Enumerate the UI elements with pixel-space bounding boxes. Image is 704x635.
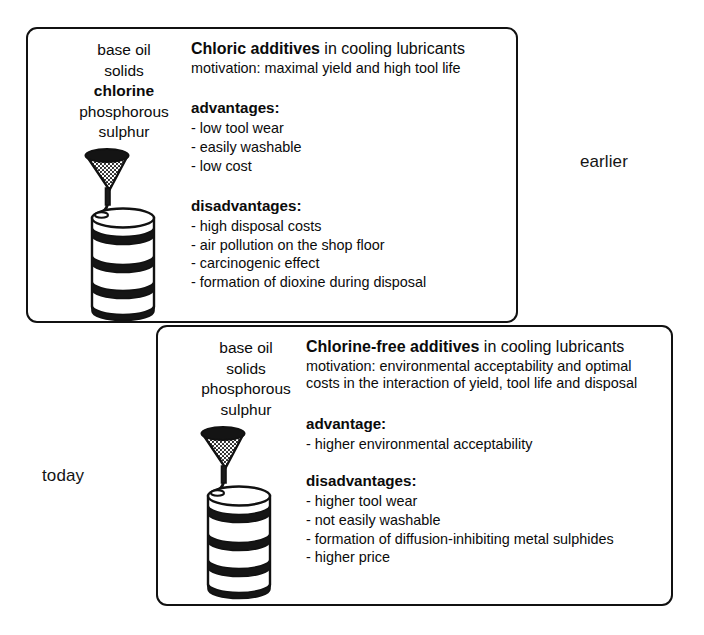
list-item: higher environmental acceptability — [306, 435, 661, 454]
today-advantages-section: advantage: higher environmental acceptab… — [306, 414, 661, 454]
list-item: carcinogenic effect — [191, 254, 506, 273]
today-advantages-title: advantage: — [306, 414, 661, 433]
today-disadvantages-title: disadvantages: — [306, 471, 661, 490]
today-headline-strong: Chlorine-free additives — [306, 338, 479, 355]
earlier-advantages-list: low tool wear easily washable low cost — [191, 119, 506, 175]
today-headline-rest: in cooling lubricants — [479, 338, 624, 355]
today-motivation-line-1: motivation: environmental acceptability … — [306, 358, 661, 375]
earlier-disadvantages-section: disadvantages: high disposal costs air p… — [191, 196, 506, 291]
today-ingredient-list: base oil solids phosphorous sulphur — [180, 338, 312, 420]
list-item: not easily washable — [306, 511, 661, 530]
earlier-advantages-section: advantages: low tool wear easily washabl… — [191, 98, 506, 175]
list-item: formation of diffusion-inhibiting metal … — [306, 530, 661, 549]
earlier-content: Chloric additives in cooling lubricants … — [191, 38, 506, 292]
ingredient-item: sulphur — [62, 122, 186, 143]
today-disadvantages-section: disadvantages: higher tool wear not easi… — [306, 471, 661, 566]
earlier-headline-rest: in cooling lubricants — [320, 40, 465, 57]
ingredient-item: solids — [62, 61, 186, 82]
list-item: higher price — [306, 548, 661, 567]
earlier-advantages-title: advantages: — [191, 98, 506, 117]
ingredient-item: sulphur — [180, 400, 312, 421]
earlier-ingredient-list: base oil solids chlorine phosphorous sul… — [62, 40, 186, 143]
oil-barrel-with-funnel-icon — [80, 147, 166, 333]
today-content: Chlorine-free additives in cooling lubri… — [306, 336, 661, 567]
list-item: formation of dioxine during disposal — [191, 273, 506, 292]
list-item: low cost — [191, 157, 506, 176]
earlier-headline: Chloric additives in cooling lubricants — [191, 38, 506, 59]
list-item: high disposal costs — [191, 217, 506, 236]
earlier-disadvantages-list: high disposal costs air pollution on the… — [191, 217, 506, 291]
oil-barrel-with-funnel-icon — [196, 425, 282, 611]
era-label-earlier: earlier — [580, 152, 628, 172]
ingredient-item: solids — [180, 359, 312, 380]
ingredient-item: phosphorous — [180, 379, 312, 400]
today-advantages-list: higher environmental acceptability — [306, 435, 661, 454]
earlier-panel: base oil solids chlorine phosphorous sul… — [26, 27, 518, 323]
ingredient-item: phosphorous — [62, 102, 186, 123]
list-item: easily washable — [191, 138, 506, 157]
ingredient-item: base oil — [180, 338, 312, 359]
earlier-motivation: motivation: maximal yield and high tool … — [191, 60, 506, 77]
era-label-today: today — [42, 466, 84, 486]
earlier-headline-strong: Chloric additives — [191, 40, 320, 57]
ingredient-item-chlorine: chlorine — [62, 81, 186, 102]
list-item: air pollution on the shop floor — [191, 236, 506, 255]
list-item: higher tool wear — [306, 492, 661, 511]
today-headline: Chlorine-free additives in cooling lubri… — [306, 336, 661, 357]
list-item: low tool wear — [191, 119, 506, 138]
today-disadvantages-list: higher tool wear not easily washable for… — [306, 492, 661, 566]
today-panel: base oil solids phosphorous sulphur — [156, 325, 673, 606]
ingredient-item: base oil — [62, 40, 186, 61]
earlier-disadvantages-title: disadvantages: — [191, 196, 506, 215]
today-motivation-line-2: costs in the interaction of yield, tool … — [306, 375, 661, 392]
